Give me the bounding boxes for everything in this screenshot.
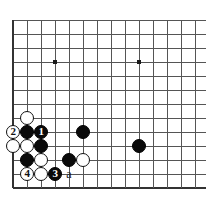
- point-label-a: a: [62, 167, 76, 181]
- move-number: 4: [24, 168, 29, 179]
- star-point-left: [53, 60, 57, 64]
- go-board-diagram: 2143 a: [0, 0, 206, 209]
- move-number: 2: [10, 126, 15, 137]
- star-point-right: [137, 60, 141, 64]
- move-number: 3: [52, 168, 57, 179]
- move-number: 1: [38, 126, 43, 137]
